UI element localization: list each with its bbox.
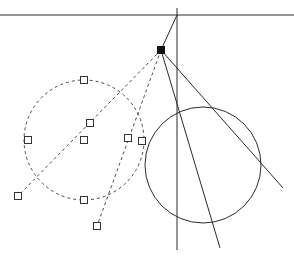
- drawing-canvas[interactable]: [0, 0, 294, 257]
- anchor-point-grip-icon[interactable]: [158, 47, 165, 54]
- circle-right-handle-grip-icon[interactable]: [139, 138, 146, 145]
- circle-bottom-handle-grip-icon[interactable]: [81, 197, 88, 204]
- line2-mid-handle-grip-icon[interactable]: [125, 135, 132, 142]
- solid-circle[interactable]: [145, 107, 261, 223]
- line-left-end-handle-grip-icon[interactable]: [15, 193, 22, 200]
- axis-to-anchor-line[interactable]: [161, 15, 177, 50]
- circle-left-handle-grip-icon[interactable]: [25, 137, 32, 144]
- drawing-surface[interactable]: [0, 0, 294, 257]
- circle-top-handle-grip-icon[interactable]: [81, 77, 88, 84]
- anchor-to-right-line[interactable]: [161, 50, 283, 188]
- line2-end-handle-grip-icon[interactable]: [94, 223, 101, 230]
- line-mid-handle-grip-icon[interactable]: [87, 120, 94, 127]
- circle-center-handle-grip-icon[interactable]: [81, 137, 88, 144]
- anchor-to-lower-line[interactable]: [161, 50, 220, 248]
